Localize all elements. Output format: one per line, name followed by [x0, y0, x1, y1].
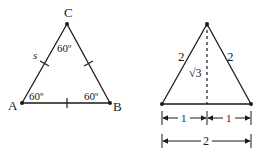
vertex-label-c: C [64, 5, 73, 20]
vertex-a-dot [20, 101, 24, 105]
vertex-right-dot [249, 102, 253, 106]
vertex-label-a: A [8, 98, 18, 113]
height-label: √3 [189, 66, 202, 80]
vertex-label-b: B [113, 99, 122, 114]
half-label-left: 1 [181, 112, 187, 124]
side-label-s: s [33, 49, 37, 61]
half-label-right: 1 [226, 112, 232, 124]
vertex-c-dot [65, 22, 69, 26]
side-label-left: 2 [178, 49, 185, 64]
dimension-base: 2 [162, 134, 251, 148]
side-label-right: 2 [227, 49, 234, 64]
vertex-b-dot [108, 101, 112, 105]
angle-label-c: 60º [57, 42, 72, 54]
vertex-left-dot [160, 102, 164, 106]
base-label: 2 [203, 134, 209, 148]
angle-label-a: 60º [29, 90, 44, 102]
dimension-halves: 1 1 [162, 111, 251, 125]
diagram: C A B s 60º 60º 60º 2 2 √3 1 1 [0, 0, 268, 154]
vertex-top-dot [205, 22, 209, 26]
triangle-with-altitude: 2 2 √3 1 1 2 [160, 22, 253, 148]
tick-mark-bc [84, 61, 93, 66]
angle-label-b: 60º [84, 90, 99, 102]
tick-mark-ac [40, 61, 49, 66]
equilateral-triangle-abc: C A B s 60º 60º 60º [8, 5, 122, 114]
